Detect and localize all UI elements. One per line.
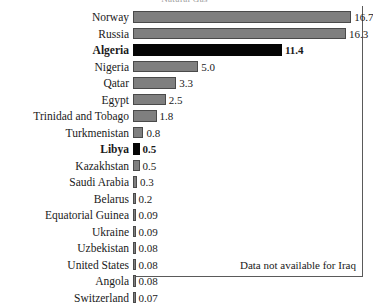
bar (133, 77, 176, 88)
bar-zone: 11.4 (133, 42, 369, 59)
bar-category-label: Angola (0, 273, 129, 290)
bar-zone: 0.3 (133, 174, 369, 191)
bar (133, 61, 198, 72)
bar-value-label: 1.8 (160, 108, 174, 125)
bar-value-label: 0.08 (139, 273, 158, 290)
bar-value-label: 0.09 (139, 207, 158, 224)
bar-value-label: 0.08 (139, 240, 158, 257)
bar-zone: 5.0 (133, 59, 369, 76)
bar (133, 176, 137, 187)
bar-category-label: Ukraine (0, 224, 129, 241)
bar-category-label: Libya (0, 141, 129, 158)
bar-value-label: 0.09 (139, 224, 158, 241)
bar-row: Angola0.08 (0, 273, 369, 290)
bar-zone: 16.3 (133, 26, 369, 43)
bar-row: Egypt2.5 (0, 92, 369, 109)
bar-category-label: Algeria (0, 42, 129, 59)
bar-row: Ukraine0.09 (0, 224, 369, 241)
bar (133, 226, 136, 237)
bar-value-label: 0.07 (139, 290, 158, 306)
bar (133, 209, 136, 220)
bar (133, 44, 282, 55)
chart-annotation: Data not available for Iraq (0, 258, 356, 272)
bar-row: Kazakhstan0.5 (0, 158, 369, 175)
bar (133, 292, 136, 303)
bar-zone: 0.08 (133, 240, 369, 257)
bar-row: Qatar3.3 (0, 75, 369, 92)
bar (133, 110, 157, 121)
bar-value-label: 0.2 (139, 191, 153, 208)
bar-zone: 16.7 (133, 9, 369, 26)
bar-category-label: Trinidad and Tobago (0, 108, 129, 125)
bar-category-label: Saudi Arabia (0, 174, 129, 191)
bar (133, 94, 166, 105)
bar (133, 143, 140, 154)
bar-zone: 0.5 (133, 141, 369, 158)
bar-zone: 3.3 (133, 75, 369, 92)
bar-zone: 2.5 (133, 92, 369, 109)
bar (133, 193, 136, 204)
bar (133, 127, 143, 138)
bar-zone: 0.09 (133, 224, 369, 241)
bar-category-label: Egypt (0, 92, 129, 109)
bar-category-label: Belarus (0, 191, 129, 208)
bar (133, 160, 140, 171)
bar (133, 242, 136, 253)
bar-value-label: 0.5 (143, 141, 157, 158)
bar-row: Belarus0.2 (0, 191, 369, 208)
bar (133, 28, 346, 39)
bar-value-label: 11.4 (285, 42, 304, 59)
bar-value-label: 0.3 (140, 174, 154, 191)
bar-row: Uzbekistan0.08 (0, 240, 369, 257)
bar-category-label: Uzbekistan (0, 240, 129, 257)
bar-row: Algeria11.4 (0, 42, 369, 59)
bar-zone: 0.07 (133, 290, 369, 306)
bar-zone: 0.5 (133, 158, 369, 175)
bar-zone: 0.2 (133, 191, 369, 208)
bar (133, 11, 351, 22)
bar-category-label: Switzerland (0, 290, 129, 306)
bar-row: Russia16.3 (0, 26, 369, 43)
bar-value-label: 16.3 (349, 26, 368, 43)
bar-value-label: 16.7 (354, 9, 373, 26)
bar-category-label: Qatar (0, 75, 129, 92)
bar-value-label: 0.8 (146, 125, 160, 142)
bar-zone: 1.8 (133, 108, 369, 125)
bar-value-label: 0.5 (143, 158, 157, 175)
bar-zone: 0.08 (133, 273, 369, 290)
bar-category-label: Turkmenistan (0, 125, 129, 142)
bar-row: Libya0.5 (0, 141, 369, 158)
bar-row: Turkmenistan0.8 (0, 125, 369, 142)
bar-category-label: Norway (0, 9, 129, 26)
bar-zone: 0.09 (133, 207, 369, 224)
bar-category-label: Equatorial Guinea (0, 207, 129, 224)
bar-row: Switzerland0.07 (0, 290, 369, 306)
bar-row: Norway16.7 (0, 9, 369, 26)
bar-category-label: Russia (0, 26, 129, 43)
bar-value-label: 2.5 (169, 92, 183, 109)
chart-title: Natural Gas (0, 0, 369, 2)
bar-value-label: 3.3 (179, 75, 193, 92)
bar-category-label: Kazakhstan (0, 158, 129, 175)
bar-row: Equatorial Guinea0.09 (0, 207, 369, 224)
bar-row: Nigeria5.0 (0, 59, 369, 76)
bar-zone: 0.8 (133, 125, 369, 142)
bar-category-label: Nigeria (0, 59, 129, 76)
bar-row: Saudi Arabia0.3 (0, 174, 369, 191)
bar-value-label: 5.0 (201, 59, 215, 76)
bar-row: Trinidad and Tobago1.8 (0, 108, 369, 125)
bar (133, 275, 136, 286)
